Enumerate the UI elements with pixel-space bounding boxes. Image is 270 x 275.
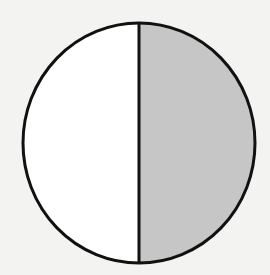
fraction-circle-diagram: [0, 0, 270, 275]
unshaded-half: [23, 23, 139, 263]
shaded-half: [139, 23, 255, 263]
